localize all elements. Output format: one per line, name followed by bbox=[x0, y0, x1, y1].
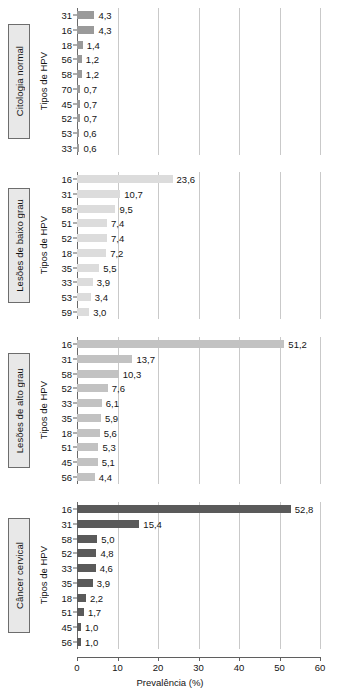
bar-row: 533,4 bbox=[77, 290, 320, 305]
bar bbox=[77, 594, 86, 602]
bar bbox=[77, 608, 84, 616]
bar bbox=[77, 473, 95, 481]
x-tick-label: 60 bbox=[315, 662, 326, 673]
bar-value-label: 51,2 bbox=[288, 339, 307, 350]
gridline bbox=[320, 337, 321, 484]
y-tick-label: 35 bbox=[61, 262, 72, 273]
x-tick-mark bbox=[158, 657, 159, 661]
y-tick-label: 16 bbox=[61, 504, 72, 515]
bar-row: 450,7 bbox=[77, 96, 320, 111]
bar-value-label: 5,6 bbox=[104, 427, 117, 438]
y-tick-label: 16 bbox=[61, 339, 72, 350]
bar bbox=[77, 114, 80, 122]
bar-row: 517,4 bbox=[77, 216, 320, 231]
bar bbox=[77, 370, 119, 378]
bar bbox=[77, 458, 98, 466]
plot-area: 1651,23113,75810,3527,6336,1355,9185,651… bbox=[77, 337, 320, 484]
bar-value-label: 3,9 bbox=[97, 277, 110, 288]
bar-value-label: 4,8 bbox=[100, 548, 113, 559]
x-tick-mark bbox=[239, 657, 240, 661]
bar-value-label: 5,1 bbox=[102, 456, 115, 467]
bar-row: 181,4 bbox=[77, 37, 320, 52]
bar bbox=[77, 234, 107, 242]
bar-row: 330,6 bbox=[77, 140, 320, 155]
bar-row: 700,7 bbox=[77, 82, 320, 97]
bar-row: 334,6 bbox=[77, 561, 320, 576]
y-tick-label: 45 bbox=[61, 456, 72, 467]
panel-label-box: Citologia normal bbox=[8, 24, 30, 139]
bar bbox=[77, 520, 139, 528]
y-tick-label: 45 bbox=[61, 621, 72, 632]
bar-row: 164,3 bbox=[77, 23, 320, 38]
bar-row: 530,6 bbox=[77, 126, 320, 141]
bar-row: 185,6 bbox=[77, 425, 320, 440]
y-tick-label: 16 bbox=[61, 25, 72, 36]
bar-row: 353,9 bbox=[77, 576, 320, 591]
bar bbox=[77, 623, 81, 631]
bar-row: 511,7 bbox=[77, 605, 320, 620]
bar bbox=[77, 264, 99, 272]
bar bbox=[77, 443, 98, 451]
bar-value-label: 5,5 bbox=[103, 262, 116, 273]
y-axis-title-text: Tipos de HPV bbox=[38, 381, 49, 439]
x-tick-label: 0 bbox=[74, 662, 79, 673]
bar-value-label: 10,3 bbox=[123, 368, 142, 379]
panel-label-text: Citologia normal bbox=[14, 46, 25, 116]
bar-value-label: 23,6 bbox=[177, 174, 196, 185]
bar-value-label: 1,7 bbox=[88, 607, 101, 618]
bar-value-label: 7,4 bbox=[111, 218, 124, 229]
x-tick-label: 50 bbox=[274, 662, 285, 673]
gridline bbox=[320, 172, 321, 319]
y-tick-label: 56 bbox=[61, 636, 72, 647]
bar-value-label: 7,2 bbox=[110, 247, 123, 258]
bar bbox=[77, 579, 93, 587]
gridline bbox=[320, 502, 321, 649]
bar-value-label: 6,1 bbox=[106, 398, 119, 409]
bar bbox=[77, 85, 80, 93]
bar bbox=[77, 399, 102, 407]
bar bbox=[77, 26, 94, 34]
bar bbox=[77, 219, 107, 227]
bar bbox=[77, 41, 83, 49]
bar-value-label: 1,0 bbox=[85, 621, 98, 632]
bar-row: 314,3 bbox=[77, 8, 320, 23]
bar-row: 561,2 bbox=[77, 52, 320, 67]
bar-value-label: 5,3 bbox=[102, 442, 115, 453]
bar bbox=[77, 175, 173, 183]
bar-value-label: 5,9 bbox=[105, 412, 118, 423]
bar bbox=[77, 340, 284, 348]
x-tick-mark bbox=[77, 657, 78, 661]
y-tick-label: 33 bbox=[61, 142, 72, 153]
bar-value-label: 1,2 bbox=[86, 54, 99, 65]
y-tick-label: 52 bbox=[61, 233, 72, 244]
bar-row: 561,0 bbox=[77, 634, 320, 649]
plot-area: 1623,63110,7589,5517,4527,4187,2355,5333… bbox=[77, 172, 320, 319]
bar-row: 1623,6 bbox=[77, 172, 320, 187]
bar bbox=[77, 249, 106, 257]
bar-row: 3110,7 bbox=[77, 187, 320, 202]
bar-value-label: 5,0 bbox=[101, 533, 114, 544]
y-tick-label: 33 bbox=[61, 277, 72, 288]
bar bbox=[77, 355, 132, 363]
y-tick-label: 51 bbox=[61, 607, 72, 618]
y-tick-label: 31 bbox=[61, 189, 72, 200]
y-tick-label: 58 bbox=[61, 368, 72, 379]
bar-row: 520,7 bbox=[77, 111, 320, 126]
gridline bbox=[320, 8, 321, 155]
panel-label-box: Lesões de baixo grau bbox=[8, 188, 30, 303]
plot-area: 1652,83115,4585,0524,8334,6353,9182,2511… bbox=[77, 502, 320, 649]
y-tick-label: 56 bbox=[61, 54, 72, 65]
y-tick-label: 52 bbox=[61, 383, 72, 394]
bar-row: 3115,4 bbox=[77, 517, 320, 532]
bar-value-label: 0,7 bbox=[84, 83, 97, 94]
panel-2: Lesões de baixo grauTipos de HPV1623,631… bbox=[0, 172, 340, 319]
bar-row: 527,6 bbox=[77, 381, 320, 396]
bar-value-label: 0,7 bbox=[84, 113, 97, 124]
bar-row: 3113,7 bbox=[77, 352, 320, 367]
y-tick-label: 58 bbox=[61, 69, 72, 80]
panel-label-box: Câncer cervical bbox=[8, 518, 30, 633]
bar-row: 355,9 bbox=[77, 411, 320, 426]
y-tick-label: 58 bbox=[61, 203, 72, 214]
bar bbox=[77, 293, 91, 301]
bar bbox=[77, 535, 97, 543]
